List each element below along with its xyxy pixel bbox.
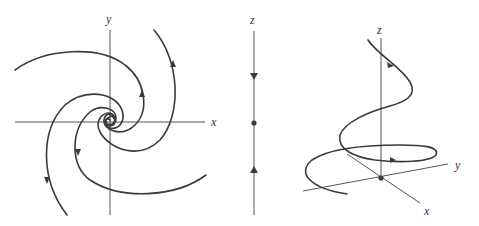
z-axis-line: z [249,13,258,215]
y-axis-3d [303,164,448,191]
phase-portrait-xy: x y [15,12,217,215]
y-axis-label: y [105,12,112,26]
origin-dot [378,175,383,180]
trajectory-4 [46,94,123,215]
trajectory-1 [15,52,144,132]
fixed-point-dot [251,120,256,125]
arrow-icon [139,90,145,97]
figure: x y z z y x [0,0,479,226]
x-axis-label: x [210,115,217,129]
helix-3d: z y x [303,23,461,218]
x-axis-label-3d: x [423,204,430,218]
helix-trajectory [306,40,437,194]
up-arrow-icon [250,166,258,173]
z-axis-label-3d: z [376,23,382,37]
z-axis-label: z [249,13,255,27]
down-arrow-icon [250,73,258,80]
y-axis-label-3d: y [454,158,461,172]
